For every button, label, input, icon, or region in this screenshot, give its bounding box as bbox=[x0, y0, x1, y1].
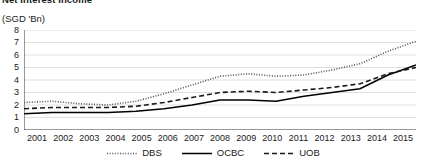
x-axis-tick-2007: 2007 bbox=[181, 131, 207, 145]
y-axis-tick-7: 7 bbox=[0, 38, 19, 47]
y-axis-tick-4: 4 bbox=[0, 76, 19, 85]
y-axis-tick-8: 8 bbox=[0, 26, 19, 35]
x-axis-tick-2015: 2015 bbox=[390, 131, 416, 145]
legend-label-uob: UOB bbox=[299, 148, 320, 158]
plot-area: 876543210 bbox=[0, 30, 427, 130]
x-axis-tick-2008: 2008 bbox=[207, 131, 233, 145]
y-axis-tick-6: 6 bbox=[0, 51, 19, 60]
legend-swatch-uob bbox=[264, 150, 294, 157]
x-axis-tick-2011: 2011 bbox=[285, 131, 311, 145]
x-axis-tick-2012: 2012 bbox=[312, 131, 338, 145]
legend-label-ocbc: OCBC bbox=[217, 148, 244, 158]
legend-item-dbs[interactable]: DBS bbox=[107, 148, 162, 158]
chart-legend: DBSOCBCUOB bbox=[0, 148, 427, 158]
legend-swatch-ocbc bbox=[182, 150, 212, 157]
x-axis-tick-2010: 2010 bbox=[259, 131, 285, 145]
x-axis-tick-2001: 2001 bbox=[24, 131, 50, 145]
x-axis-tick-2005: 2005 bbox=[129, 131, 155, 145]
legend-item-uob[interactable]: UOB bbox=[264, 148, 320, 158]
x-axis-tick-2003: 2003 bbox=[76, 131, 102, 145]
x-axis-tick-2014: 2014 bbox=[364, 131, 390, 145]
y-axis-tick-2: 2 bbox=[0, 101, 19, 110]
y-axis-tick-0: 0 bbox=[0, 126, 19, 135]
x-axis-tick-2013: 2013 bbox=[338, 131, 364, 145]
legend-swatch-dbs bbox=[107, 150, 137, 157]
y-axis-unit-label: (SGD 'Bn) bbox=[2, 13, 45, 24]
plot-svg bbox=[24, 30, 416, 130]
x-axis-tick-labels: 2001200220032004200520062007200820092010… bbox=[24, 131, 416, 145]
x-axis-tick-2002: 2002 bbox=[50, 131, 76, 145]
legend-item-ocbc[interactable]: OCBC bbox=[182, 148, 244, 158]
y-axis-tick-3: 3 bbox=[0, 88, 19, 97]
series-line-uob bbox=[24, 68, 416, 109]
legend-label-dbs: DBS bbox=[142, 148, 162, 158]
y-axis-tick-1: 1 bbox=[0, 113, 19, 122]
x-axis-tick-2006: 2006 bbox=[155, 131, 181, 145]
y-axis-tick-5: 5 bbox=[0, 63, 19, 72]
x-axis-tick-2009: 2009 bbox=[233, 131, 259, 145]
series-line-ocbc bbox=[24, 65, 416, 114]
net-interest-income-chart: Net Interest Income (SGD 'Bn) 876543210 … bbox=[0, 0, 427, 167]
series-line-dbs bbox=[24, 41, 416, 105]
x-axis-tick-2004: 2004 bbox=[102, 131, 128, 145]
chart-title: Net Interest Income bbox=[2, 0, 92, 5]
